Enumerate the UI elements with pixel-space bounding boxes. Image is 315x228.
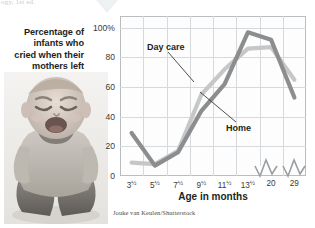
chart-title-line-1: Percentage of xyxy=(0,27,84,38)
photo-credit: Jouke van Keulen/Shutterstock xyxy=(113,209,195,216)
chart-title-line-4: mothers left xyxy=(0,61,84,72)
y-axis-tick-label: 0 xyxy=(110,171,115,181)
home-leader-line xyxy=(200,92,236,122)
axis-break-1 xyxy=(255,160,277,176)
crying-infant-photo xyxy=(4,72,108,224)
series-label-day-care: Day care xyxy=(147,42,185,52)
figure-container: ogy, 1st ed. xyxy=(0,0,315,228)
chart-title: Percentage of infants who cried when the… xyxy=(0,27,84,73)
y-axis-tick-label: 20 xyxy=(105,141,115,151)
cropped-source-text: ogy, 1st ed. xyxy=(1,0,35,6)
annotation-leader-lines xyxy=(120,16,306,176)
chart-title-line-3: cried when their xyxy=(0,50,84,61)
series-label-home: Home xyxy=(226,123,251,133)
y-axis-tick-label: 60 xyxy=(105,82,115,92)
x-axis-title: Age in months xyxy=(120,191,306,202)
axis-break-2 xyxy=(283,160,305,176)
chart-title-line-2: infants who xyxy=(0,38,84,49)
daycare-leader-line xyxy=(168,52,194,82)
plot-area: 100%806040200 3½5½7½9½11½13½2029 Day car… xyxy=(120,16,306,176)
decorative-wedge xyxy=(96,0,118,13)
axis-break-marks xyxy=(120,156,306,182)
infant-photo-svg xyxy=(4,72,108,224)
y-axis-tick-label: 80 xyxy=(105,52,115,62)
y-axis-tick-label: 40 xyxy=(105,112,115,122)
y-axis-tick-label: 100% xyxy=(93,23,115,33)
